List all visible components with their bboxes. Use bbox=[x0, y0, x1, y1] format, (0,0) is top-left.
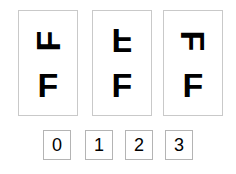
option-button-3[interactable]: 3 bbox=[165, 130, 193, 160]
card-bottom-glyph-slot: F bbox=[93, 63, 151, 107]
upright-f-icon: F bbox=[183, 68, 204, 102]
option-button-2[interactable]: 2 bbox=[125, 130, 153, 160]
rotated-f-icon: F bbox=[112, 24, 133, 58]
rotated-f-icon: F bbox=[176, 31, 210, 52]
card-bottom-glyph-slot: F bbox=[19, 63, 77, 107]
stimulus-card[interactable]: F F bbox=[92, 10, 152, 116]
upright-f-icon: F bbox=[112, 68, 133, 102]
stimulus-area: F F F F F F bbox=[0, 0, 236, 124]
option-button-1[interactable]: 1 bbox=[85, 130, 113, 160]
card-top-glyph-slot: F bbox=[93, 19, 151, 63]
option-label: 1 bbox=[94, 136, 104, 154]
card-top-glyph-slot: F bbox=[164, 19, 222, 63]
option-button-0[interactable]: 0 bbox=[43, 130, 71, 160]
rotated-f-icon: F bbox=[31, 31, 65, 52]
answer-options-row: 0 1 2 3 bbox=[0, 130, 236, 166]
stimulus-card[interactable]: F F bbox=[163, 10, 223, 116]
upright-f-icon: F bbox=[38, 68, 59, 102]
option-label: 3 bbox=[174, 136, 184, 154]
card-bottom-glyph-slot: F bbox=[164, 63, 222, 107]
option-label: 0 bbox=[52, 136, 62, 154]
option-label: 2 bbox=[134, 136, 144, 154]
stimulus-card[interactable]: F F bbox=[18, 10, 78, 116]
card-top-glyph-slot: F bbox=[19, 19, 77, 63]
